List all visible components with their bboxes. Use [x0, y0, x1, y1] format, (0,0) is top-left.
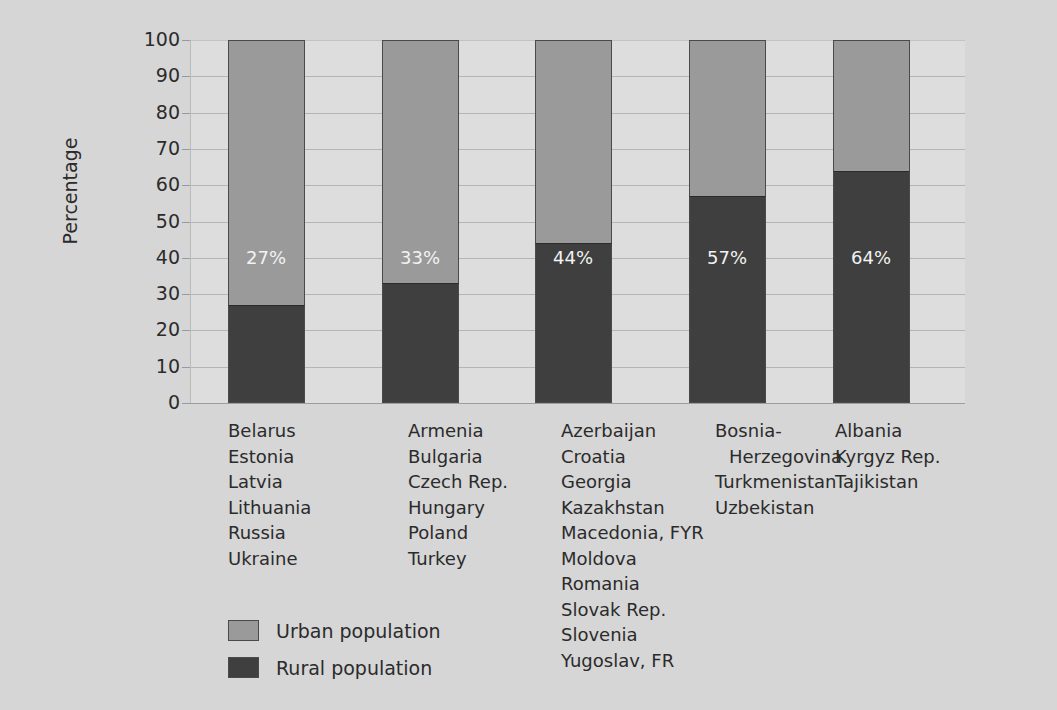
- country-label: Slovak Rep.: [561, 597, 704, 623]
- bar-group[interactable]: 33%: [382, 40, 459, 403]
- country-label: Croatia: [561, 444, 704, 470]
- country-label: Armenia: [408, 418, 508, 444]
- y-tick-mark-80: [182, 113, 190, 114]
- country-label: Uzbekistan: [715, 495, 842, 521]
- country-label: Bosnia-: [715, 418, 842, 444]
- country-label: Azerbaijan: [561, 418, 704, 444]
- country-label: Turkey: [408, 546, 508, 572]
- y-tick-mark-10: [182, 367, 190, 368]
- category-column: BelarusEstoniaLatviaLithuaniaRussiaUkrai…: [228, 418, 311, 571]
- country-label: Czech Rep.: [408, 469, 508, 495]
- y-tick-mark-90: [182, 76, 190, 77]
- y-tick-label-30: 30: [140, 284, 180, 303]
- bar-value-label: 33%: [382, 247, 459, 268]
- bar-group[interactable]: 27%: [228, 40, 305, 403]
- country-label: Hungary: [408, 495, 508, 521]
- bar-segment-rural[interactable]: [382, 283, 459, 403]
- y-tick-mark-0: [182, 403, 190, 404]
- country-label: Poland: [408, 520, 508, 546]
- country-label: Kazakhstan: [561, 495, 704, 521]
- y-tick-mark-50: [182, 222, 190, 223]
- country-label: Macedonia, FYR: [561, 520, 704, 546]
- category-column: ArmeniaBulgariaCzech Rep.HungaryPolandTu…: [408, 418, 508, 571]
- legend-item[interactable]: Rural population: [228, 649, 441, 686]
- country-label: Georgia: [561, 469, 704, 495]
- bar-value-label: 57%: [689, 247, 766, 268]
- legend-swatch-urban: [228, 620, 259, 641]
- y-tick-label-20: 20: [140, 320, 180, 339]
- bar-group[interactable]: 44%: [535, 40, 612, 403]
- bar-segment-urban[interactable]: [535, 40, 612, 243]
- country-label: Latvia: [228, 469, 311, 495]
- country-label: Albania: [835, 418, 940, 444]
- y-tick-mark-70: [182, 149, 190, 150]
- category-column: AzerbaijanCroatiaGeorgiaKazakhstanMacedo…: [561, 418, 704, 673]
- bar-segment-urban[interactable]: [689, 40, 766, 196]
- country-label: Bulgaria: [408, 444, 508, 470]
- y-tick-label-100: 100: [140, 30, 180, 49]
- y-tick-mark-30: [182, 294, 190, 295]
- bar-value-label: 64%: [833, 247, 910, 268]
- country-label: Herzegovina: [715, 444, 842, 470]
- category-column: Bosnia-HerzegovinaTurkmenistanUzbekistan: [715, 418, 842, 520]
- country-label: Ukraine: [228, 546, 311, 572]
- legend-item[interactable]: Urban population: [228, 612, 441, 649]
- bar-group[interactable]: 64%: [833, 40, 910, 403]
- country-label: Romania: [561, 571, 704, 597]
- country-label: Estonia: [228, 444, 311, 470]
- country-label: Moldova: [561, 546, 704, 572]
- category-column: AlbaniaKyrgyz Rep.Tajikistan: [835, 418, 940, 495]
- y-tick-mark-20: [182, 330, 190, 331]
- y-tick-label-0: 0: [140, 393, 180, 412]
- y-tick-mark-60: [182, 185, 190, 186]
- country-label: Turkmenistan: [715, 469, 842, 495]
- country-label: Tajikistan: [835, 469, 940, 495]
- chart-legend: Urban populationRural population: [228, 612, 441, 686]
- bar-segment-rural[interactable]: [228, 305, 305, 403]
- bar-group[interactable]: 57%: [689, 40, 766, 403]
- country-label: Russia: [228, 520, 311, 546]
- y-tick-mark-100: [182, 40, 190, 41]
- gridline-0: [190, 403, 965, 404]
- category-label-columns: BelarusEstoniaLatviaLithuaniaRussiaUkrai…: [0, 418, 1057, 698]
- y-axis-title: Percentage: [59, 111, 81, 271]
- legend-label: Rural population: [276, 657, 432, 679]
- y-axis-line: [190, 40, 191, 403]
- bar-segment-rural[interactable]: [689, 196, 766, 403]
- y-tick-mark-40: [182, 258, 190, 259]
- legend-swatch-rural: [228, 657, 259, 678]
- legend-label: Urban population: [276, 620, 441, 642]
- country-label: Lithuania: [228, 495, 311, 521]
- country-label: Yugoslav, FR: [561, 648, 704, 674]
- plot-area: 27%33%44%57%64%: [190, 40, 965, 403]
- bar-value-label: 27%: [228, 247, 305, 268]
- y-tick-label-90: 90: [140, 66, 180, 85]
- y-tick-label-10: 10: [140, 357, 180, 376]
- bar-value-label: 44%: [535, 247, 612, 268]
- y-tick-label-40: 40: [140, 248, 180, 267]
- bar-segment-rural[interactable]: [833, 171, 910, 403]
- y-tick-label-60: 60: [140, 175, 180, 194]
- y-tick-label-50: 50: [140, 212, 180, 231]
- country-label: Belarus: [228, 418, 311, 444]
- bar-segment-urban[interactable]: [833, 40, 910, 171]
- country-label: Kyrgyz Rep.: [835, 444, 940, 470]
- y-tick-label-80: 80: [140, 103, 180, 122]
- country-label: Slovenia: [561, 622, 704, 648]
- y-tick-label-70: 70: [140, 139, 180, 158]
